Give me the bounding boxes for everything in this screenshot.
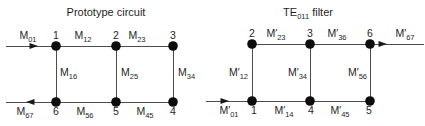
figure-canvas: Prototype circuitM12M23M16M25M34M56M45M0… <box>0 0 425 126</box>
node-number-6: 6 <box>53 105 59 117</box>
coupling-label-12: M12 <box>74 29 91 44</box>
node-number-3: 3 <box>170 29 176 41</box>
te011-filter-title: TE011 filter <box>283 6 333 21</box>
node-number-1: 1 <box>251 104 257 116</box>
coupling-label-54: M45 <box>136 105 153 120</box>
node-number-4: 4 <box>170 105 176 117</box>
coupling-label-34: M34 <box>178 66 195 81</box>
coupling-label-14: M′14 <box>274 104 293 119</box>
prototype-circuit: Prototype circuitM12M23M16M25M34M56M45M0… <box>6 6 195 120</box>
coupling-label-65: M′56 <box>348 66 367 81</box>
output-arrow-head-icon <box>26 99 35 105</box>
coupling-diagrams: Prototype circuitM12M23M16M25M34M56M45M0… <box>0 0 425 126</box>
coupling-label-34: M′34 <box>288 66 307 81</box>
coupling-label-23: M′23 <box>266 27 285 42</box>
node-number-2: 2 <box>249 27 255 39</box>
output-arrow-label: M′67 <box>395 27 414 42</box>
coupling-label-45: M′45 <box>330 104 349 119</box>
coupling-label-16: M16 <box>60 66 77 81</box>
resonator-node-3 <box>168 41 178 51</box>
input-arrow-head-icon <box>30 43 39 49</box>
coupling-label-36: M′36 <box>327 27 346 42</box>
input-arrow-label: M01 <box>19 29 36 44</box>
resonator-node-1 <box>51 41 61 51</box>
node-number-2: 2 <box>113 29 119 41</box>
prototype-circuit-title: Prototype circuit <box>67 6 146 18</box>
resonator-node-6 <box>365 39 375 49</box>
input-arrow-label: M′01 <box>219 104 238 119</box>
resonator-node-3 <box>305 39 315 49</box>
coupling-label-25: M25 <box>121 66 138 81</box>
node-number-5: 5 <box>113 105 119 117</box>
node-number-1: 1 <box>53 29 59 41</box>
node-number-6: 6 <box>367 27 373 39</box>
output-arrow-label: M67 <box>16 105 33 120</box>
node-number-4: 4 <box>308 104 314 116</box>
node-number-3: 3 <box>307 27 313 39</box>
te011-filter: TE011 filterM′23M′36M′12M′34M′56M′14M′45… <box>206 6 424 119</box>
coupling-label-65: M56 <box>76 105 93 120</box>
output-arrow-head-icon <box>379 41 388 47</box>
coupling-label-21: M′12 <box>229 66 248 81</box>
node-number-5: 5 <box>366 104 372 116</box>
resonator-node-2 <box>247 39 257 49</box>
coupling-label-23: M23 <box>128 29 145 44</box>
resonator-node-2 <box>111 41 121 51</box>
